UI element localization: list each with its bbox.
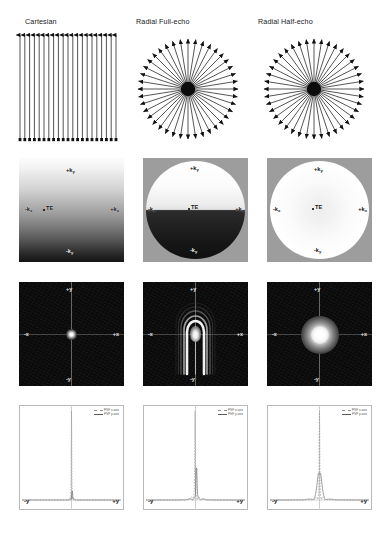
plot-legend-half-echo: PSF x-axis PSF y-axis xyxy=(340,408,369,417)
plot-legend-full-echo: PSF x-axis PSF y-axis xyxy=(216,408,245,417)
psf-core-full-echo xyxy=(190,326,201,342)
kspace-label-right-cartesian: +kx xyxy=(110,207,119,213)
kspace-label-top-full-echo: +ky xyxy=(190,166,199,172)
kspace-label-te-cartesian: TE xyxy=(46,206,53,212)
plot-xtick-max-cartesian: +y xyxy=(112,498,119,504)
kspace-label-bottom-cartesian: -ky xyxy=(66,249,73,255)
psf-blob-cartesian xyxy=(66,329,77,340)
legend-swatch-y-full-echo xyxy=(218,414,227,415)
kspace-panel-cartesian: +ky -kx +kx -ky TE xyxy=(19,158,124,262)
legend-entry-y-cartesian: PSF y-axis xyxy=(94,413,119,416)
kspace-panel-half-echo: +ky -kx +kx -ky TE xyxy=(267,158,372,262)
psf-label-bottom-full-echo: -y xyxy=(190,377,195,382)
kspace-te-dot-half-echo xyxy=(312,208,314,210)
plot-xtick-min-half-echo: -y xyxy=(272,498,277,504)
plot-curves-cartesian xyxy=(19,405,124,510)
trajectory-panel-cartesian xyxy=(16,29,120,145)
psf-label-right-full-echo: +x xyxy=(237,332,243,337)
plot-xtick-min-cartesian: -y xyxy=(24,498,29,504)
kspace-label-right-full-echo: +kx xyxy=(235,207,244,213)
legend-swatch-x-cartesian xyxy=(94,410,103,411)
kspace-label-te-full-echo: TE xyxy=(191,205,198,211)
psf-label-bottom-cartesian: -y xyxy=(66,377,71,382)
kspace-label-bottom-full-echo: -ky xyxy=(190,248,197,254)
kspace-te-dot-cartesian xyxy=(43,209,45,211)
plot-xtick-max-full-echo: +y xyxy=(236,498,243,504)
kspace-label-left-cartesian: -kx xyxy=(25,207,32,213)
trajectory-panel-full-echo xyxy=(131,29,245,145)
kspace-panel-full-echo: +ky -kx +kx -ky TE xyxy=(143,158,248,262)
legend-label-y-full-echo: PSF y-axis xyxy=(228,413,243,416)
psf-panel-half-echo: +y -y -x +x xyxy=(267,282,372,386)
psf-label-left-cartesian: -x xyxy=(24,332,29,337)
trajectory-panel-half-echo xyxy=(257,29,371,145)
psf-label-bottom-half-echo: -y xyxy=(314,377,319,382)
plot-xtick-min-full-echo: -y xyxy=(148,498,153,504)
psf-label-top-full-echo: +y xyxy=(190,287,196,292)
legend-entry-y-half-echo: PSF y-axis xyxy=(342,413,367,416)
psf-label-top-half-echo: +y xyxy=(314,287,320,292)
legend-swatch-y-half-echo xyxy=(342,414,351,415)
psf-label-right-cartesian: +x xyxy=(113,332,119,337)
kspace-te-dot-full-echo xyxy=(188,208,190,210)
kspace-label-right-half-echo: +kx xyxy=(358,207,367,213)
legend-label-y-half-echo: PSF y-axis xyxy=(352,413,367,416)
plot-curves-full-echo xyxy=(143,405,248,510)
kspace-label-top-half-echo: +ky xyxy=(314,167,323,173)
plot-xtick-max-half-echo: +y xyxy=(360,498,367,504)
profile-plot-full-echo: -y +y PSF x-axis PSF y-axis xyxy=(143,405,248,510)
psf-label-right-half-echo: +x xyxy=(361,332,367,337)
psf-panel-cartesian: +y -y -x +x xyxy=(19,282,124,386)
figure-root: Cartesian Radial Full-echo Radial Half-e… xyxy=(0,0,379,535)
plot-curves-half-echo xyxy=(267,405,372,510)
legend-label-y-cartesian: PSF y-axis xyxy=(104,413,119,416)
legend-swatch-y-cartesian xyxy=(94,414,103,415)
column-title-half-echo: Radial Half-echo xyxy=(258,17,313,26)
column-title-full-echo: Radial Full-echo xyxy=(136,17,190,26)
kspace-label-top-cartesian: +ky xyxy=(66,168,75,174)
legend-swatch-x-full-echo xyxy=(218,410,227,411)
legend-swatch-x-half-echo xyxy=(342,410,351,411)
kspace-label-left-half-echo: -kx xyxy=(273,207,280,213)
psf-label-left-full-echo: -x xyxy=(148,332,153,337)
profile-plot-cartesian: -y +y PSF x-axis PSF y-axis xyxy=(19,405,124,510)
psf-label-top-cartesian: +y xyxy=(66,287,72,292)
kspace-label-bottom-half-echo: -ky xyxy=(314,248,321,254)
psf-label-left-half-echo: -x xyxy=(272,332,277,337)
legend-entry-y-full-echo: PSF y-axis xyxy=(218,413,243,416)
column-title-cartesian: Cartesian xyxy=(25,17,57,26)
kspace-label-left-full-echo: -kx xyxy=(148,207,155,213)
plot-legend-cartesian: PSF x-axis PSF y-axis xyxy=(92,408,121,417)
psf-panel-full-echo: +y -y -x +x xyxy=(143,282,248,386)
psf-core-half-echo xyxy=(311,326,329,344)
kspace-label-te-half-echo: TE xyxy=(315,205,322,211)
profile-plot-half-echo: -y +y PSF x-axis PSF y-axis xyxy=(267,405,372,510)
